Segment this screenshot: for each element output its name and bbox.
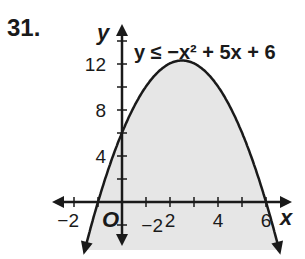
x-tick-label-neg2: −2 (57, 210, 79, 231)
x-tick-label-4: 4 (213, 210, 224, 231)
y-tick-label-8: 8 (95, 100, 106, 121)
x-tick-label-2: 2 (165, 210, 176, 231)
y-tick-label-12: 12 (85, 54, 106, 75)
y-tick-label-neg2: −2 (141, 215, 163, 236)
inequality-label: y ≤ −x² + 5x + 6 (134, 41, 276, 63)
y-tick-label-4: 4 (95, 146, 106, 167)
origin-label: O (102, 207, 119, 232)
y-axis-up-arrow-icon (116, 24, 128, 36)
x-tick-label-6: 6 (261, 210, 272, 231)
graph: y x y ≤ −x² + 5x + 6 12 8 4 −2 −2 2 4 6 … (0, 0, 305, 259)
y-axis-label: y (96, 20, 111, 45)
x-axis-left-arrow-icon (52, 196, 64, 208)
x-axis-label: x (279, 205, 293, 230)
